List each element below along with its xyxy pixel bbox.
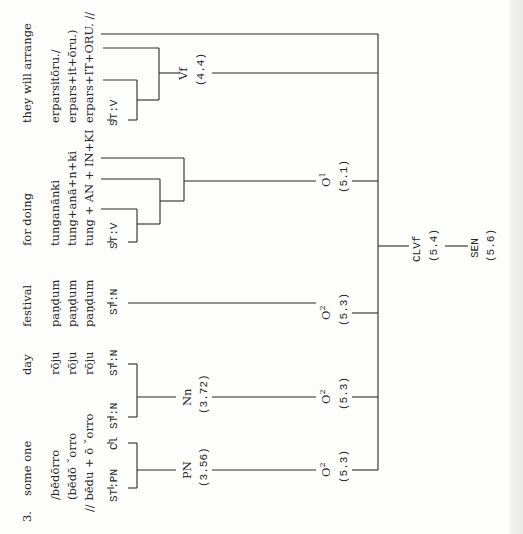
- stem-label: ST:N: [108, 289, 120, 315]
- stem-label: ST:N: [108, 350, 120, 376]
- form-line-1: erparsitōru./: [48, 49, 62, 123]
- sentence-ref: (5.6): [485, 229, 497, 262]
- form-line-2: tung+anā+n+ki: [65, 151, 79, 246]
- node-label-o2: O2: [318, 462, 333, 477]
- gloss-some-one: some one: [20, 440, 34, 496]
- node-superscript: 1: [318, 172, 327, 177]
- form-line-1: rōju: [48, 352, 62, 375]
- node-superscript: 2: [318, 462, 327, 467]
- form-line-2: (bēdō ˇorro: [65, 433, 79, 500]
- node-ref: (5.3): [338, 377, 350, 410]
- node-superscript: 2: [318, 305, 327, 310]
- gloss-they-will-arrange: they will arrange: [20, 23, 34, 123]
- node-label-vf: Vf: [176, 67, 190, 81]
- node-ref: (5.3): [338, 293, 350, 326]
- svg-text:O2: O2: [318, 389, 333, 404]
- gloss-festival: festival: [20, 284, 34, 327]
- syntax-tree-diagram: they will arrange erparsitōru./ erpars+i…: [0, 0, 523, 534]
- form-line-3: // bēdu + ō ˇorro: [82, 413, 96, 512]
- form-line-3: paṇḍum: [82, 280, 96, 327]
- node-letter: O: [319, 311, 333, 320]
- node-letter: O: [319, 468, 333, 477]
- form-line-2: erpars+it+ōru.): [65, 30, 79, 123]
- sentence-label: SEN: [469, 238, 481, 258]
- node-ref: (5.1): [338, 160, 350, 193]
- sub-node-ref: (3.56): [198, 447, 210, 487]
- form-line-3: tung + AN + IN+KI: [82, 130, 96, 246]
- clause-ref: (5.4): [428, 229, 440, 262]
- node-letter: O: [319, 395, 333, 404]
- node-label-o2: O2: [318, 389, 333, 404]
- form-line-1: paṇḍum: [48, 280, 62, 327]
- stem-label-pn: ST:PN: [108, 469, 120, 502]
- stem-label-n: ST:N: [108, 403, 120, 429]
- svg-text:O2: O2: [318, 305, 333, 320]
- node-letter: O: [319, 178, 333, 187]
- sub-node-nn: Nn: [180, 388, 194, 406]
- clause-label: CLVf: [411, 236, 423, 262]
- stem-label: ST:V: [108, 99, 120, 126]
- form-line-2: rōju: [65, 352, 79, 375]
- node-ref: (4.4): [195, 53, 207, 86]
- stem-label: ST:V: [108, 222, 120, 249]
- node-ref: (5.3): [338, 450, 350, 483]
- sub-node-ref: (3.72): [198, 374, 210, 414]
- form-line-3: rōju: [82, 352, 96, 375]
- form-line-1: /bēdōrro: [48, 450, 62, 500]
- stem-label-cl: Cl: [108, 437, 120, 450]
- sub-node-pn: PN: [180, 461, 194, 479]
- form-line-2: paṇḍum: [65, 280, 79, 327]
- example-number: 3.: [20, 511, 34, 522]
- svg-text:O1: O1: [318, 172, 333, 187]
- gloss-for-doing: for doing: [20, 192, 34, 246]
- node-label-o2: O2: [318, 305, 333, 320]
- form-line-1: tunganānki: [48, 180, 62, 246]
- gloss-day: day: [20, 354, 34, 375]
- form-line-3: erpars+IT+ORU. //: [82, 12, 96, 123]
- node-superscript: 2: [318, 389, 327, 394]
- svg-text:O2: O2: [318, 462, 333, 477]
- node-label-o1: O1: [318, 172, 333, 187]
